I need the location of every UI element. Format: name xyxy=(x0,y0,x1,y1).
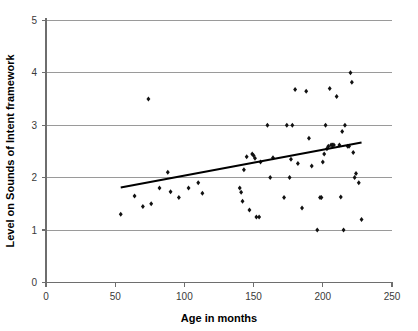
data-point xyxy=(187,186,191,191)
data-point xyxy=(351,150,355,155)
data-point xyxy=(196,180,200,185)
data-point xyxy=(321,159,325,164)
x-tick-label-50: 50 xyxy=(110,291,122,302)
data-point xyxy=(166,170,170,175)
data-point xyxy=(158,186,162,191)
x-tick-label-0: 0 xyxy=(43,291,49,302)
x-tick-label-200: 200 xyxy=(314,291,331,302)
data-points xyxy=(119,70,364,232)
data-point xyxy=(282,195,286,200)
data-point xyxy=(200,191,204,196)
data-point xyxy=(360,217,364,222)
data-point xyxy=(304,89,308,94)
data-point xyxy=(339,194,343,199)
data-point xyxy=(290,123,294,128)
x-tick-label-250: 250 xyxy=(384,291,401,302)
x-axis-tick-labels: 0 50 100 150 200 250 xyxy=(43,291,401,302)
data-point xyxy=(119,212,123,217)
y-tick-label-2: 2 xyxy=(31,172,37,183)
y-tick-label-3: 3 xyxy=(31,120,37,131)
data-point xyxy=(310,164,314,169)
data-point xyxy=(349,70,353,75)
data-point xyxy=(141,204,145,209)
data-point xyxy=(315,228,319,233)
y-tick-label-1: 1 xyxy=(31,225,37,236)
y-axis-tick-labels: 0 1 2 3 4 5 xyxy=(31,15,37,288)
data-point xyxy=(350,80,354,85)
y-tick-label-0: 0 xyxy=(31,277,37,288)
data-point xyxy=(296,161,300,166)
axes xyxy=(46,18,392,284)
trend-line xyxy=(121,142,362,187)
data-point xyxy=(342,228,346,233)
data-point xyxy=(149,201,153,206)
x-axis-title: Age in months xyxy=(181,312,257,324)
y-tick-label-5: 5 xyxy=(31,15,37,26)
data-point xyxy=(265,123,269,128)
data-point xyxy=(285,123,289,128)
data-point xyxy=(288,175,292,180)
data-point xyxy=(247,208,251,213)
x-axis-ticks xyxy=(46,282,392,287)
data-point xyxy=(257,214,261,219)
data-point xyxy=(328,86,332,91)
data-point xyxy=(133,193,137,198)
data-point xyxy=(322,152,326,157)
data-point xyxy=(324,123,328,128)
data-point xyxy=(169,189,173,194)
y-tick-label-4: 4 xyxy=(31,67,37,78)
data-point xyxy=(289,157,293,162)
x-tick-label-100: 100 xyxy=(176,291,193,302)
data-point xyxy=(357,180,361,185)
data-point xyxy=(177,195,181,200)
data-point xyxy=(340,129,344,134)
y-axis-title: Level on Sounds of Intent framework xyxy=(4,54,16,248)
x-tick-label-150: 150 xyxy=(245,291,262,302)
chart-canvas: 0 1 2 3 4 5 0 50 100 150 200 250 Age in … xyxy=(0,0,418,331)
data-point xyxy=(335,94,339,99)
data-point xyxy=(241,199,245,204)
data-point xyxy=(268,175,272,180)
data-point xyxy=(300,205,304,210)
data-point xyxy=(293,87,297,92)
data-point xyxy=(307,136,311,141)
scatter-chart: 0 1 2 3 4 5 0 50 100 150 200 250 Age in … xyxy=(0,0,418,331)
data-point xyxy=(146,97,150,102)
data-point xyxy=(343,123,347,128)
data-point xyxy=(242,167,246,172)
data-point xyxy=(245,154,249,159)
